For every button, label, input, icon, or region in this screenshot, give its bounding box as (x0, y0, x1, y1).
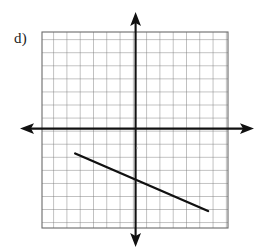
graph-figure: d) (0, 0, 268, 252)
part-label: d) (14, 30, 27, 47)
origin-mark (136, 147, 137, 148)
coordinate-plane-svg (0, 0, 268, 252)
